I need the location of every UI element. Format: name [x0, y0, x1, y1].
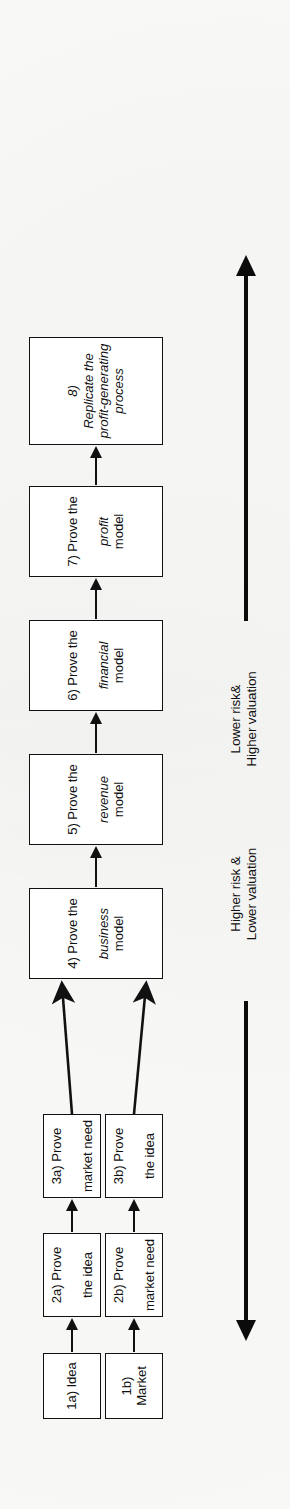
node-3a-label: 3a) Prove market need: [49, 1120, 95, 1192]
node-8-label: 8) Replicate the profit-generating proce…: [65, 344, 126, 438]
node-6[interactable]: 6) Prove the financial model: [29, 620, 163, 711]
node-3b[interactable]: 3b) Prove the idea: [105, 1114, 163, 1198]
node-1a-label: 1a) Idea: [64, 1362, 79, 1410]
node-2a-label: 2a) Prove the idea: [49, 1247, 95, 1303]
node-7-label: 7) Prove the profit model: [65, 496, 126, 567]
node-4-label: 4) Prove the business model: [65, 898, 126, 969]
flowchart-stage: 1a) Idea 1b) Market 2a) Prove the idea 2…: [0, 0, 290, 1509]
node-3b-label: 3b) Prove the idea: [111, 1128, 157, 1184]
edge-3b-4: [20, 971, 170, 1116]
risk-axis-label-late: Lower risk& Higher valuation: [228, 629, 260, 809]
risk-axis-label-early: Higher risk & Lower valuation: [228, 804, 260, 984]
node-6-label: 6) Prove the financial model: [65, 630, 126, 701]
node-8[interactable]: 8) Replicate the profit-generating proce…: [29, 337, 163, 445]
node-3a[interactable]: 3a) Prove market need: [43, 1114, 101, 1198]
node-2a[interactable]: 2a) Prove the idea: [43, 1233, 101, 1317]
node-5[interactable]: 5) Prove the revenue model: [29, 754, 163, 845]
node-2b-label: 2b) Prove market need: [111, 1239, 157, 1311]
node-1b-label: 1b) Market: [119, 1357, 150, 1415]
node-2b[interactable]: 2b) Prove market need: [105, 1233, 163, 1317]
node-7[interactable]: 7) Prove the profit model: [29, 486, 163, 577]
node-5-label: 5) Prove the revenue model: [65, 764, 126, 835]
node-1b[interactable]: 1b) Market: [105, 1353, 163, 1419]
node-4[interactable]: 4) Prove the business model: [29, 888, 163, 979]
node-1a[interactable]: 1a) Idea: [43, 1353, 101, 1419]
